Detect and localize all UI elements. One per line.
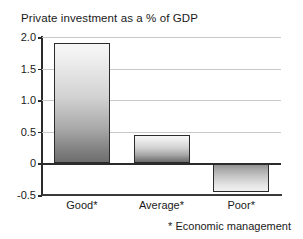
gridline: 2.0 bbox=[42, 37, 281, 38]
y-axis-tick-mark bbox=[38, 37, 42, 39]
y-axis-tick-mark bbox=[38, 100, 42, 102]
bar-chart-figure: Private investment as a % of GDP 2.01.51… bbox=[0, 0, 303, 239]
bar bbox=[213, 163, 269, 191]
y-axis-tick-label: 0 bbox=[30, 157, 36, 169]
y-axis-tick-label: 2.0 bbox=[21, 31, 36, 43]
y-axis-tick-label: -0.5 bbox=[17, 189, 36, 201]
y-axis-tick-label: 1.5 bbox=[21, 63, 36, 75]
y-axis-tick-mark bbox=[38, 69, 42, 71]
y-axis-tick-mark bbox=[38, 132, 42, 134]
zero-line: 0 bbox=[42, 163, 281, 165]
y-axis-tick-label: 0.5 bbox=[21, 126, 36, 138]
y-axis-tick-mark bbox=[38, 163, 42, 165]
bar bbox=[134, 135, 190, 163]
plot-area: 2.01.51.00.50-0.5 bbox=[42, 37, 281, 195]
y-axis-tick-label: 1.0 bbox=[21, 94, 36, 106]
x-axis-tick-label: Good* bbox=[66, 199, 97, 211]
x-axis-tick-label: Poor* bbox=[227, 199, 255, 211]
bar bbox=[54, 43, 110, 163]
x-axis-line bbox=[42, 194, 282, 196]
footnote: * Economic management bbox=[168, 220, 291, 232]
chart-title: Private investment as a % of GDP bbox=[21, 12, 198, 24]
x-axis-tick-label: Average* bbox=[139, 199, 184, 211]
